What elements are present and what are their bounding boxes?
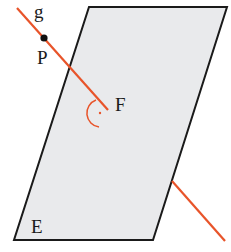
label-f: F: [115, 94, 126, 115]
label-p: P: [37, 47, 48, 68]
label-g: g: [34, 1, 44, 22]
label-e: E: [31, 216, 43, 237]
right-angle-dot: [99, 112, 101, 114]
diagram-canvas: g P F E: [0, 0, 231, 252]
point-p-dot: [40, 34, 47, 41]
line-g-back: [172, 181, 225, 241]
